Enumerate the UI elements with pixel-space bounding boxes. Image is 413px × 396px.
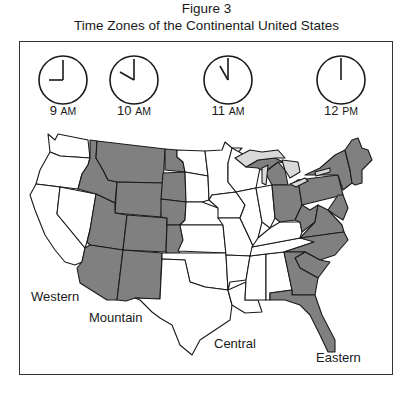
zone-label-mountain: Mountain (89, 310, 142, 325)
clock-hour: 10 (117, 103, 131, 118)
zone-label-eastern: Eastern (316, 350, 361, 365)
zone-label-western: Western (31, 289, 79, 304)
clock-10am-icon (110, 56, 158, 104)
time-zone-map (0, 0, 413, 396)
clock-hour: 11 (212, 103, 226, 118)
clock-period: AM (229, 105, 245, 117)
zone-label-central: Central (214, 336, 256, 351)
clock-hour: 12 (324, 103, 338, 118)
state-wyoming (115, 182, 163, 217)
state-south-dakota (185, 172, 209, 202)
clock-label-10am: 10 AM (104, 103, 164, 118)
clock-period: AM (135, 105, 151, 117)
clock-hour: 9 (50, 103, 57, 118)
state-arizona (77, 245, 123, 300)
clock-label-9am: 9 AM (33, 103, 93, 118)
lake-michigan (262, 165, 268, 185)
state-montana (96, 141, 165, 183)
clock-label-11am: 11 AM (198, 103, 258, 118)
clock-11am-icon (204, 56, 252, 104)
state-south-dakota-west (161, 172, 186, 202)
state-kansas (178, 225, 226, 253)
clock-9am-icon (39, 56, 87, 104)
state-florida (270, 290, 335, 352)
clock-label-12pm: 12 PM (311, 103, 371, 118)
clock-12pm-icon (317, 56, 365, 104)
state-new-mexico (117, 250, 162, 301)
clock-period: PM (342, 105, 358, 117)
state-colorado (123, 215, 167, 252)
clock-period: AM (61, 105, 77, 117)
